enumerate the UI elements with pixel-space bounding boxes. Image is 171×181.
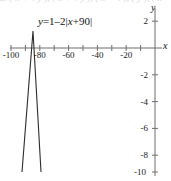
y-axis-label: y xyxy=(151,2,155,13)
x-tick-label--100: -100 xyxy=(0,50,24,60)
graph-screenshot: a. ( x + 4 y ), ( x + 4 y ), ( x − 4 ), … xyxy=(0,0,171,181)
equation-shift: 90 xyxy=(79,15,90,27)
x-tick-label--60: -60 xyxy=(56,50,82,60)
x-tick-label--80: -80 xyxy=(27,50,53,60)
y-tick-label--6: -6 xyxy=(128,123,148,133)
equation-label: y=1–2|x+90| xyxy=(38,15,92,27)
y-tick-label--8: -8 xyxy=(128,150,148,160)
y-tick-label--10: -10 xyxy=(126,167,146,177)
x-tick-label--40: -40 xyxy=(84,50,110,60)
x-tick-label--20: -20 xyxy=(113,50,139,60)
abs-bar-close: | xyxy=(90,15,92,27)
x-axis-label: x xyxy=(163,40,167,51)
y-tick-label--2: -2 xyxy=(128,70,148,80)
y-tick-label--4: -4 xyxy=(128,97,148,107)
y-tick-label-2: 2 xyxy=(128,16,148,26)
